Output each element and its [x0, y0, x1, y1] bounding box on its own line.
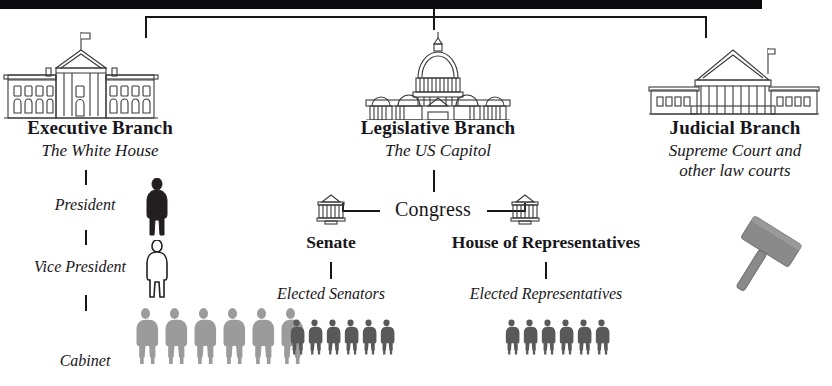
person-icon-senator — [306, 308, 323, 366]
header-bar — [0, 0, 762, 9]
house-to-representatives-line — [545, 262, 547, 279]
judicial-branch-title: Judicial Branch — [638, 118, 832, 138]
diagram-canvas: Executive Branch The White House Preside… — [0, 0, 832, 386]
person-icon-representative — [539, 308, 556, 366]
president-label: President — [10, 196, 160, 214]
cabinet-people-group — [132, 305, 304, 367]
person-icon-senator — [342, 308, 359, 366]
executive-line-to-president — [85, 170, 87, 185]
person-icon-representative — [521, 308, 538, 366]
elected-senators-group — [288, 308, 395, 366]
gavel-icon — [700, 205, 815, 309]
drop-line-legislative — [433, 16, 435, 30]
house-of-representatives-label: House of Representatives — [430, 233, 662, 252]
legislative-branch-subtitle: The US Capitol — [333, 141, 543, 160]
legislative-line-to-congress — [433, 170, 435, 192]
elected-senators-label: Elected Senators — [261, 285, 401, 303]
executive-branch-subtitle: The White House — [0, 141, 200, 160]
person-icon-representative — [503, 308, 520, 366]
capitol-icon — [358, 30, 518, 120]
person-icon-president — [142, 178, 172, 236]
vice-president-label: Vice President — [0, 258, 160, 276]
judicial-branch-subtitle-line2: other law courts — [638, 161, 832, 180]
person-icon-representative — [575, 308, 592, 366]
senate-label: Senate — [271, 233, 391, 252]
house-building-icon — [505, 193, 545, 225]
person-icon-senator — [378, 308, 395, 366]
senate-to-senators-line — [330, 262, 332, 279]
white-house-icon — [2, 28, 182, 120]
legislative-branch-title: Legislative Branch — [333, 118, 543, 138]
person-icon-cabinet-member — [190, 305, 217, 367]
person-icon-cabinet-member — [248, 305, 275, 367]
person-icon-cabinet-member — [161, 305, 188, 367]
person-icon-representative — [557, 308, 574, 366]
senate-building-icon — [311, 193, 351, 225]
person-icon-representative — [593, 308, 610, 366]
elected-representatives-label: Elected Representatives — [458, 285, 634, 303]
judicial-branch-subtitle-line1: Supreme Court and — [638, 141, 832, 160]
person-icon-senator — [360, 308, 377, 366]
executive-branch-title: Executive Branch — [0, 118, 200, 138]
branch-split-line — [145, 16, 707, 18]
person-icon-cabinet-member — [132, 305, 159, 367]
person-icon-senator — [288, 308, 305, 366]
person-icon-senator — [324, 308, 341, 366]
congress-label: Congress — [383, 198, 483, 221]
person-icon-cabinet-member — [219, 305, 246, 367]
supreme-court-icon — [645, 34, 825, 120]
elected-representatives-group — [503, 308, 610, 366]
executive-line-to-vp — [85, 230, 87, 245]
executive-line-to-cabinet — [85, 295, 87, 311]
person-icon-vice-president — [142, 240, 172, 298]
